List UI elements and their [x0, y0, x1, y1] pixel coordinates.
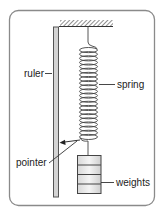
weights [78, 156, 102, 194]
ruler-label: ruler [24, 68, 45, 79]
weights-label: weights [115, 177, 150, 188]
support-bracket [59, 20, 113, 27]
spring-experiment-diagram: ruler spring pointer weights [0, 0, 163, 217]
spring-label: spring [117, 79, 144, 90]
ruler [54, 27, 59, 197]
pointer-label: pointer [16, 157, 47, 168]
